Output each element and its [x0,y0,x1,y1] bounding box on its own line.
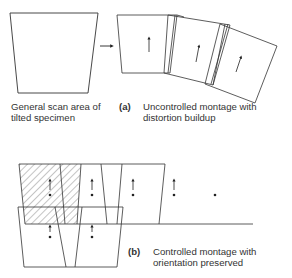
dot-icon [91,236,94,239]
montage-tile [117,15,177,73]
panel-a-caption: Uncontrolled montage with distortion bui… [143,101,257,123]
montage-tile [205,24,277,103]
caption-line: distortion buildup [143,112,257,123]
caption-line: Uncontrolled montage with [143,101,257,112]
dot-icon [49,236,52,239]
up-arrow-icon [196,46,199,62]
caption-line: General scan area of [11,101,101,112]
dot-icon [91,194,94,197]
orientation-markers-a [149,38,241,72]
scan-area-trapezoid [10,13,98,93]
panel-b-tag: (b) [128,246,140,257]
dot-icon [49,194,52,197]
montage-diagram [0,0,292,278]
uncontrolled-montage [117,15,277,103]
dot-icon [214,194,217,197]
caption-line: orientation preserved [153,257,256,268]
dot-icon [132,194,135,197]
caption-line: Controlled montage with [153,246,256,257]
dot-icon [173,194,176,197]
panel-b-caption: Controlled montage with orientation pres… [153,246,256,268]
caption-line: tilted specimen [11,112,101,123]
panel-a-tag: (a) [119,101,131,112]
up-arrow-icon [236,57,241,72]
scan-area-caption: General scan area of tilted specimen [11,101,101,123]
